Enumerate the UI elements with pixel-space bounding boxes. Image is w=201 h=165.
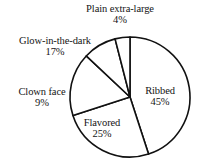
pie-label-plain-extra-large-percent: 4% <box>61 14 179 25</box>
pie-label-ribbed-percent: 45% <box>132 96 188 107</box>
pie-label-ribbed: Ribbed 45% <box>132 85 188 108</box>
pie-chart: Plain extra-large 4% Glow-in-the-dark 17… <box>0 0 201 165</box>
pie-label-glow-in-the-dark-name: Glow-in-the-dark <box>19 35 91 46</box>
pie-label-glow-in-the-dark-percent: 17% <box>3 46 107 57</box>
pie-label-glow-in-the-dark: Glow-in-the-dark 17% <box>3 35 107 58</box>
pie-label-clown-face: Clown face 9% <box>4 86 80 109</box>
pie-label-plain-extra-large-name: Plain extra-large <box>86 3 154 14</box>
pie-label-clown-face-name: Clown face <box>18 86 65 97</box>
pie-label-clown-face-percent: 9% <box>4 97 80 108</box>
pie-label-flavored: Flavored 25% <box>64 117 140 140</box>
pie-label-ribbed-name: Ribbed <box>145 85 175 96</box>
pie-label-plain-extra-large: Plain extra-large 4% <box>61 3 179 26</box>
pie-label-flavored-percent: 25% <box>64 128 140 139</box>
pie-label-flavored-name: Flavored <box>84 117 121 128</box>
